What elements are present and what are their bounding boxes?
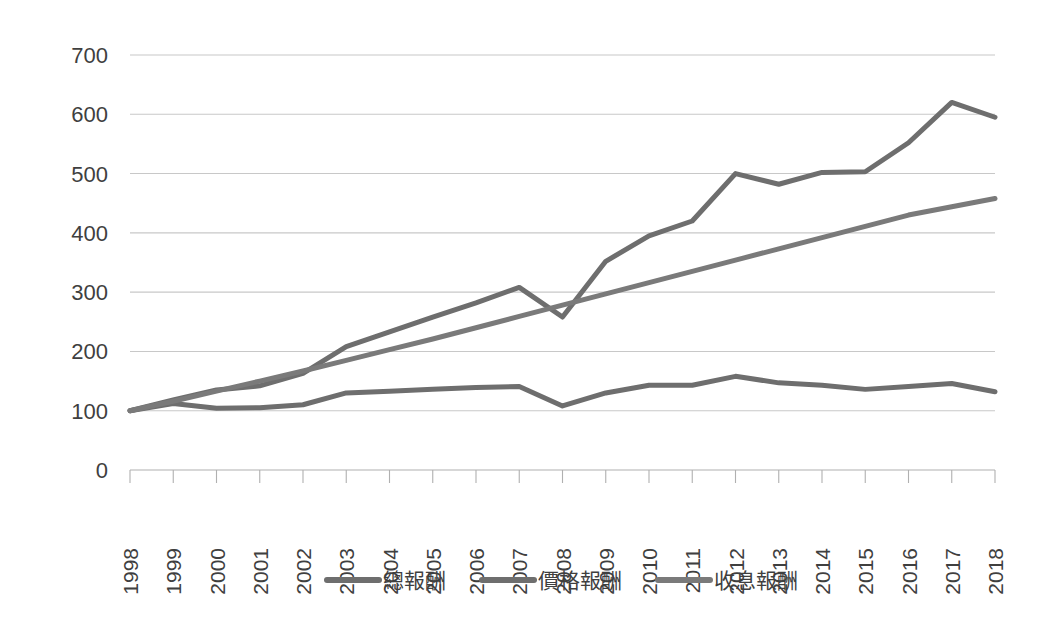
series-line-3 — [130, 198, 995, 410]
legend-item[interactable]: 價格報酬 — [482, 569, 622, 592]
legend-label: 收息報酬 — [714, 569, 798, 592]
x-axis-tick-label: 2006 — [465, 548, 488, 595]
y-axis-tick-label: 700 — [71, 43, 108, 68]
x-axis-tick-label: 1998 — [119, 548, 142, 595]
x-axis-tick-label: 2017 — [941, 548, 964, 595]
x-axis-tick-label: 2014 — [811, 548, 834, 595]
x-axis-tick-label: 2011 — [681, 548, 704, 593]
y-axis-tick-label: 600 — [71, 102, 108, 127]
x-axis-tick-label: 2015 — [854, 548, 877, 595]
y-axis-tick-labels: 0100200300400500600700 — [71, 43, 108, 483]
y-axis-tick-label: 500 — [71, 162, 108, 187]
y-axis-tick-label: 300 — [71, 280, 108, 305]
y-axis-tick-label: 400 — [71, 221, 108, 246]
x-axis-tick-label: 2001 — [249, 548, 272, 595]
y-axis-tick-label: 0 — [96, 458, 108, 483]
series-line-1 — [130, 102, 995, 410]
x-axis-tick-label: 2016 — [898, 548, 921, 595]
x-axis-tick-label: 1999 — [162, 548, 185, 595]
x-axis-tick-label: 2018 — [984, 548, 1007, 595]
legend-item[interactable]: 收息報酬 — [658, 569, 798, 592]
x-axis-tick-label: 2000 — [206, 548, 229, 595]
chart-legend: 總報酬價格報酬收息報酬 — [327, 569, 798, 592]
data-series — [130, 102, 995, 410]
line-chart: 0100200300400500600700 19981999200020012… — [0, 0, 1048, 627]
x-axis-tick-label: 2007 — [508, 548, 531, 595]
x-axis-tick-marks — [130, 470, 995, 483]
y-axis-tick-label: 200 — [71, 339, 108, 364]
y-axis-tick-label: 100 — [71, 399, 108, 424]
x-axis-tick-label: 2010 — [638, 548, 661, 595]
legend-label: 總報酬 — [383, 569, 446, 592]
x-axis-tick-label: 2003 — [335, 548, 358, 595]
chart-container: 0100200300400500600700 19981999200020012… — [0, 0, 1048, 627]
legend-label: 價格報酬 — [538, 569, 622, 592]
x-axis-tick-label: 2002 — [292, 548, 315, 595]
